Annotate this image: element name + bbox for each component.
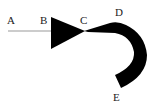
label-c: C [80,14,87,26]
label-b: B [40,14,47,26]
label-a: A [7,14,15,26]
label-e: E [113,91,120,103]
label-d: D [115,6,123,18]
curved-shape-c-d-e [84,22,147,88]
diagram-canvas: A B C D E [0,0,154,106]
